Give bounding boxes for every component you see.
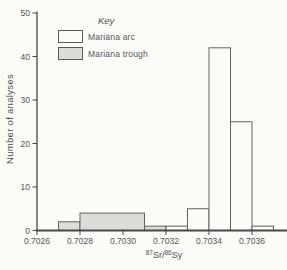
y-tick-label: 20 bbox=[21, 139, 31, 149]
legend-swatch-mariana-trough bbox=[58, 47, 83, 60]
legend-item-mariana-trough: Mariana trough bbox=[58, 47, 148, 60]
x-axis-label-sr: Sr/ bbox=[153, 250, 165, 260]
x-axis-label-superscript-87: 87 bbox=[146, 249, 153, 256]
legend-label-mariana-trough: Mariana trough bbox=[88, 49, 148, 59]
y-tick-label: 50 bbox=[21, 8, 31, 18]
x-axis-label-superscript-86: 86 bbox=[165, 249, 172, 256]
x-tick-label: 0.7036 bbox=[239, 236, 265, 246]
y-tick-label: 10 bbox=[21, 182, 31, 192]
histogram-bar-mariana-arc bbox=[188, 209, 210, 231]
histogram-bar-mariana-arc bbox=[209, 48, 231, 231]
y-tick-label: 0 bbox=[25, 226, 30, 236]
x-tick-label: 0.7030 bbox=[110, 236, 136, 246]
histogram-figure: 010203040500.70260.70280.70300.70320.703… bbox=[0, 0, 287, 270]
x-tick-label: 0.7034 bbox=[196, 236, 222, 246]
y-tick-label: 30 bbox=[21, 95, 31, 105]
legend: Key Mariana arc Mariana trough bbox=[58, 15, 148, 60]
histogram-bar-mariana-trough bbox=[80, 213, 145, 230]
legend-swatch-mariana-arc bbox=[58, 30, 83, 43]
legend-title: Key bbox=[98, 15, 148, 26]
legend-item-mariana-arc: Mariana arc bbox=[58, 30, 148, 43]
x-tick-label: 0.7026 bbox=[24, 236, 50, 246]
histogram-bar-mariana-arc bbox=[231, 122, 253, 231]
histogram-bar-mariana-trough bbox=[59, 222, 81, 231]
x-axis-label: 87Sr/86Sy bbox=[108, 249, 220, 260]
x-axis-label-sr2: Sy bbox=[172, 250, 183, 260]
legend-label-mariana-arc: Mariana arc bbox=[88, 32, 135, 42]
y-axis-label: Number of analyses bbox=[4, 49, 18, 189]
y-tick-label: 40 bbox=[21, 52, 31, 62]
x-tick-label: 0.7032 bbox=[153, 236, 179, 246]
x-tick-label: 0.7028 bbox=[67, 236, 93, 246]
